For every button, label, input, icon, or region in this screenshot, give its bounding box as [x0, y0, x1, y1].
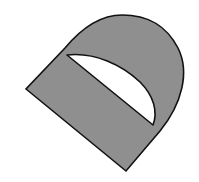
d-shape-body	[26, 15, 184, 171]
figure-canvas: Gray rotated D-shaped solid with a white…	[0, 0, 199, 182]
d-shape-figure	[0, 0, 199, 182]
